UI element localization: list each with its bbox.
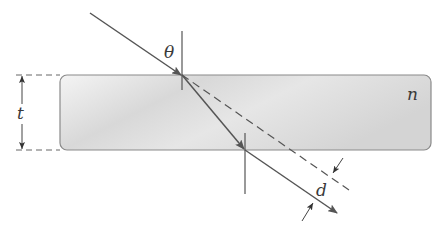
refraction-diagram: θ t n d [0,0,446,235]
displacement-label: d [316,180,327,200]
angle-label: θ [164,42,174,62]
displacement-arrow-top [333,158,343,173]
displacement-arrow-bottom [302,203,313,221]
thickness-label: t [17,103,24,123]
refractive-index-label: n [407,84,418,104]
